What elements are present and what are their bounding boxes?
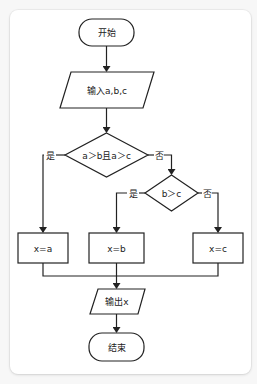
start-label: 开始 — [98, 27, 116, 38]
assign-c-node: x=c — [193, 233, 243, 263]
connector-d1-no-b — [164, 155, 172, 174]
output-label: 输出x — [105, 296, 129, 307]
end-label: 结束 — [108, 342, 126, 353]
decision2-yes-label: 是 — [129, 189, 138, 199]
end-node: 结束 — [89, 333, 144, 361]
start-node: 开始 — [79, 19, 134, 46]
assign-b-label: x=b — [107, 244, 126, 254]
decision1-no-label: 否 — [155, 151, 164, 161]
assign-b-node: x=b — [89, 233, 144, 263]
decision2-label: b＞c — [162, 189, 182, 199]
output-node: 输出x — [90, 289, 145, 314]
connector-d2-yes-b — [117, 193, 128, 232]
connector-d2-no-b — [212, 193, 218, 232]
decision2-node: b＞c — [145, 175, 198, 211]
connector-d1-yes-b — [43, 155, 44, 232]
assign-a-label: x=a — [34, 244, 52, 254]
flowchart: 开始 输入a,b,c a＞b且a＞c 是 否 b＞c 是 否 x=a x=b — [0, 0, 257, 384]
connector-merge — [43, 263, 218, 276]
decision2-no-label: 否 — [203, 189, 212, 199]
decision1-node: a＞b且a＞c — [65, 133, 148, 177]
assign-c-label: x=c — [209, 244, 227, 254]
decision1-label: a＞b且a＞c — [82, 151, 131, 161]
assign-a-node: x=a — [18, 233, 68, 263]
input-label: 输入a,b,c — [87, 85, 127, 96]
decision1-yes-label: 是 — [46, 151, 55, 161]
input-node: 输入a,b,c — [60, 72, 154, 108]
